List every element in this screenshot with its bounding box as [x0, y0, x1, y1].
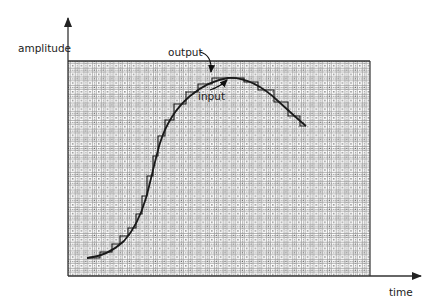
x-axis-label: time — [389, 286, 413, 298]
input-label: input — [198, 90, 225, 102]
output-label: output — [168, 46, 203, 58]
sampling-diagram: output input amplitude time — [0, 0, 437, 308]
y-axis-label: amplitude — [18, 42, 71, 54]
